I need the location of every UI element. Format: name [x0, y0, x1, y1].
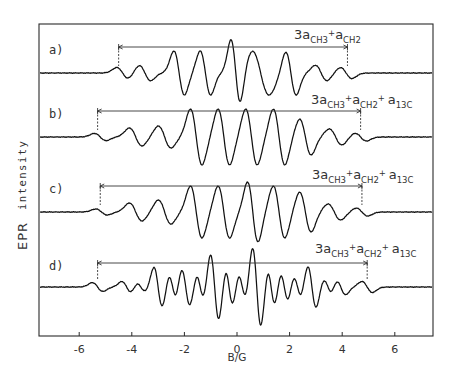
x-tick-label: -4: [126, 343, 137, 356]
hyperfine-annotation: 3aCH3+aCH2+ a13C: [311, 92, 412, 110]
x-tick-label: -6: [74, 343, 85, 356]
panel-label-d: d): [49, 259, 63, 273]
y-axis-label-intensity: intensity: [16, 140, 28, 210]
hyperfine-annotation: 3aCH3+aCH2: [294, 27, 361, 45]
hyperfine-annotation: 3aCH3+aCH2+ a13C: [315, 241, 416, 259]
y-axis-label-epr: EPR: [15, 222, 30, 250]
x-tick-label: 4: [339, 343, 346, 356]
hyperfine-annotation: 3aCH3+aCH2+ a13C: [312, 167, 413, 185]
spectrum-trace-d: [40, 249, 432, 325]
panel-label-b: b): [49, 107, 63, 121]
epr-spectra-chart: -6-4-20246 a)3aCH3+aCH2b)3aCH3+aCH2+ a13…: [0, 0, 452, 384]
x-tick-label: 6: [391, 343, 398, 356]
range-annotations: a)3aCH3+aCH2b)3aCH3+aCH2+ a13Cc)3aCH3+aC…: [49, 27, 416, 280]
spectrum-trace-c: [40, 182, 432, 242]
panel-label-a: a): [49, 43, 63, 57]
x-tick-label: -2: [179, 343, 190, 356]
y-axis-label: EPR intensity: [15, 140, 30, 250]
spectrum-trace-b: [40, 109, 432, 165]
x-tick-label: 2: [286, 343, 293, 356]
spectrum-trace-a: [40, 40, 432, 102]
panel-label-c: c): [49, 182, 63, 196]
x-axis-label: B/G: [228, 351, 247, 363]
